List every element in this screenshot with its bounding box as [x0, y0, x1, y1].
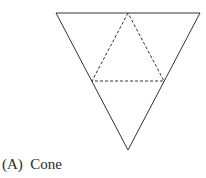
option-label: (A) Cone [2, 156, 62, 173]
net-diagram [0, 0, 206, 178]
inner-dashed-triangle [92, 13, 164, 81]
